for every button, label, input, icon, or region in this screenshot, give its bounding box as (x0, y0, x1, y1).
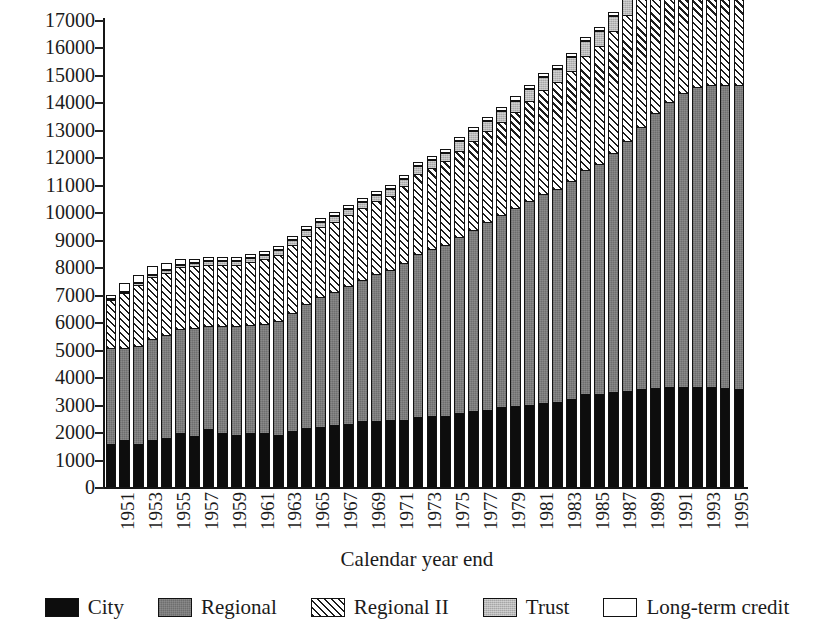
bar-segment-ltc (385, 185, 396, 189)
bar-1993 (692, 0, 703, 487)
bar-segment-trust (245, 258, 256, 262)
bar-segment-regional2 (664, 0, 675, 102)
bar-segment-ltc (217, 257, 228, 261)
bar-segment-city (664, 387, 675, 487)
x-axis-label-1951: 1951 (118, 492, 137, 530)
x-axis-label-1959: 1959 (230, 492, 249, 530)
bar-segment-city (538, 403, 549, 487)
bar-segment-regional (385, 270, 396, 420)
bar-segment-regional (245, 325, 256, 434)
bar-1966 (315, 218, 326, 487)
bar-segment-regional2 (706, 0, 717, 85)
bar-segment-city (371, 421, 382, 487)
bar-segment-regional (371, 274, 382, 421)
legend-item-city[interactable]: City (45, 595, 124, 620)
bar-1986 (594, 27, 605, 487)
bar-segment-regional2 (106, 300, 117, 348)
bar-segment-trust (259, 255, 270, 259)
y-axis-label: 3000 (55, 395, 95, 415)
bar-segment-trust (608, 16, 619, 31)
y-axis-label: 6000 (55, 312, 95, 332)
bar-segment-ltc (231, 257, 242, 261)
bar-segment-regional2 (301, 236, 312, 305)
bar-segment-regional2 (175, 267, 186, 329)
bar-1953 (133, 275, 144, 487)
bar-1979 (496, 107, 507, 487)
bar-segment-regional2 (343, 215, 354, 286)
bar-segment-regional2 (315, 227, 326, 297)
x-axis-label-1985: 1985 (593, 492, 612, 530)
bar-segment-regional (217, 326, 228, 433)
y-axis-label: 17000 (45, 10, 95, 30)
bar-1974 (427, 156, 438, 487)
legend-item-ltc[interactable]: Long-term credit (603, 595, 789, 620)
bar-segment-ltc (203, 257, 214, 261)
x-axis-line (103, 487, 748, 489)
bar-segment-city (161, 438, 172, 487)
bar-segment-trust (399, 179, 410, 186)
bar-segment-regional2 (720, 0, 731, 85)
y-axis-tick (95, 432, 104, 434)
bar-1975 (440, 149, 451, 487)
bar-segment-regional (119, 348, 130, 440)
legend-item-trust[interactable]: Trust (483, 595, 570, 620)
bar-segment-ltc (119, 283, 130, 291)
x-axis-label-1967: 1967 (341, 492, 360, 530)
chart-legend: CityRegionalRegional IITrustLong-term cr… (0, 595, 834, 620)
bar-1968 (343, 205, 354, 487)
bar-segment-trust (427, 160, 438, 168)
bar-1956 (175, 259, 186, 487)
legend-label-trust: Trust (526, 595, 570, 620)
bar-segment-trust (106, 299, 117, 301)
bar-segment-regional (636, 127, 647, 389)
legend-item-regional[interactable]: Regional (158, 595, 277, 620)
bar-segment-city (427, 416, 438, 487)
bar-segment-ltc (524, 85, 535, 89)
bar-segment-regional (133, 346, 144, 445)
bar-segment-city (385, 420, 396, 487)
bar-segment-regional2 (427, 168, 438, 249)
x-axis-label-1983: 1983 (565, 492, 584, 530)
bar-segment-ltc (357, 198, 368, 202)
y-axis-tick (95, 377, 104, 379)
bar-segment-regional2 (608, 31, 619, 153)
bar-segment-ltc (329, 212, 340, 216)
bar-segment-ltc (133, 275, 144, 283)
bar-1962 (259, 250, 270, 487)
bar-segment-regional2 (287, 245, 298, 312)
bar-segment-city (259, 433, 270, 487)
bar-1957 (189, 259, 200, 487)
bar-1994 (706, 0, 717, 487)
bar-1984 (566, 53, 577, 487)
bar-segment-trust (468, 131, 479, 141)
bar-segment-trust (329, 216, 340, 222)
bar-segment-regional2 (566, 71, 577, 181)
x-axis-label-1987: 1987 (620, 492, 639, 530)
bar-1967 (329, 212, 340, 487)
bar-segment-regional (580, 170, 591, 394)
bar-segment-city (482, 410, 493, 487)
bar-segment-city (552, 402, 563, 487)
bar-segment-city (594, 394, 605, 487)
bar-segment-trust (622, 0, 633, 15)
y-axis-label: 11000 (46, 175, 95, 195)
bar-segment-city (692, 387, 703, 487)
bar-segment-regional (496, 215, 507, 407)
bar-1991 (664, 0, 675, 487)
legend-item-regional2[interactable]: Regional II (311, 595, 449, 620)
bar-segment-regional2 (734, 0, 745, 85)
bar-segment-city (566, 399, 577, 487)
bar-segment-ltc (427, 156, 438, 160)
bar-segment-regional (357, 280, 368, 421)
bar-1987 (608, 11, 619, 487)
bar-1961 (245, 254, 256, 488)
stacked-bar-chart: 0100020003000400050006000700080009000100… (0, 0, 834, 633)
bar-segment-trust (524, 89, 535, 101)
bar-segment-trust (357, 202, 368, 208)
bar-segment-regional (552, 189, 563, 402)
bar-1980 (510, 96, 521, 487)
bar-1959 (217, 257, 228, 487)
bar-segment-ltc (482, 117, 493, 121)
bar-1951 (106, 295, 117, 487)
bar-segment-ltc (538, 73, 549, 77)
